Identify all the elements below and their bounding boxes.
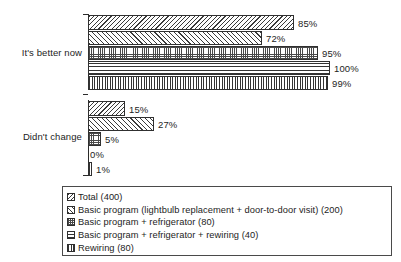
legend-swatch-basic-refrigerator-icon xyxy=(67,218,75,226)
legend-swatch-basic-program-icon xyxy=(67,206,75,214)
bar-value-g1-fridge: 95% xyxy=(322,48,341,59)
axis-tick-mid xyxy=(83,94,88,95)
legend-item-basic-refrigerator: Basic program + refrigerator (80) xyxy=(67,216,391,229)
legend-swatch-rewiring-icon xyxy=(67,244,75,252)
legend-item-rewiring: Rewiring (80) xyxy=(67,241,391,254)
bar-g1-total xyxy=(88,15,294,30)
legend-swatch-basic-refrigerator-rewiring-icon xyxy=(67,231,75,239)
bar-g2-fridge xyxy=(88,132,101,146)
category-label-better-now: It's better now xyxy=(22,47,82,58)
bar-g2-rewiring xyxy=(88,162,92,176)
legend-swatch-total-icon xyxy=(67,193,75,201)
bar-g1-fridge-rewiring xyxy=(88,61,330,75)
legend-label-rewiring: Rewiring (80) xyxy=(78,243,134,253)
bar-value-g2-total: 15% xyxy=(129,104,148,115)
legend-label-basic-refrigerator-rewiring: Basic program + refrigerator + rewiring … xyxy=(78,230,258,240)
legend-item-basic-refrigerator-rewiring: Basic program + refrigerator + rewiring … xyxy=(67,229,391,242)
bar-value-g1-basic: 72% xyxy=(266,33,285,44)
bar-value-g1-total: 85% xyxy=(298,18,317,29)
bar-value-g2-fridge: 5% xyxy=(105,134,119,145)
bar-g2-total xyxy=(88,101,125,116)
bar-g1-rewiring xyxy=(88,76,328,90)
bar-value-g2-rewiring: 1% xyxy=(96,164,110,175)
bar-value-g1-fridge-rewiring: 100% xyxy=(334,63,359,74)
legend-label-basic-refrigerator: Basic program + refrigerator (80) xyxy=(78,217,215,227)
legend-item-total: Total (400) xyxy=(67,191,391,204)
bar-value-g2-basic: 27% xyxy=(158,119,177,130)
bar-g2-basic xyxy=(88,117,154,131)
legend-label-basic-program: Basic program (lightbulb replacement + d… xyxy=(78,205,343,215)
legend-label-total: Total (400) xyxy=(78,192,122,202)
category-label-didnt-change: Didn't change xyxy=(23,131,82,142)
bar-g1-basic xyxy=(88,31,262,45)
bar-g1-fridge xyxy=(88,46,318,60)
bar-chart: It's better now Didn't change 85% 72% 95… xyxy=(0,0,401,262)
bar-value-g1-rewiring: 99% xyxy=(332,78,351,89)
legend: Total (400) Basic program (lightbulb rep… xyxy=(62,186,392,256)
bar-value-g2-fridge-rewiring: 0% xyxy=(90,149,104,160)
legend-item-basic-program: Basic program (lightbulb replacement + d… xyxy=(67,204,391,217)
plot-area: It's better now Didn't change 85% 72% 95… xyxy=(0,0,401,178)
